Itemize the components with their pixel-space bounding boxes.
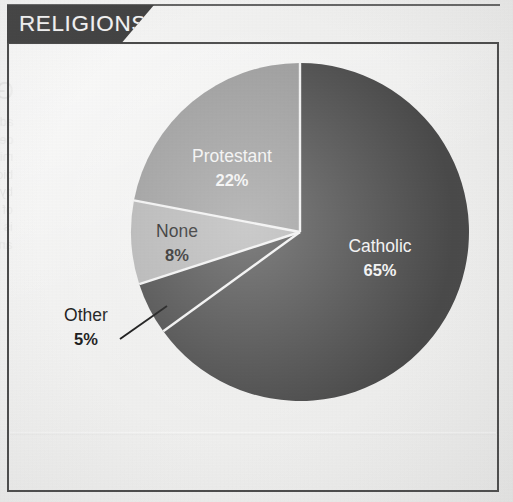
religions-pie-chart: Catholic65%Other5%None8%Protestant22% (0, 0, 513, 502)
slice-label-name-catholic: Catholic (348, 236, 411, 256)
slice-label-name-protestant: Protestant (192, 146, 272, 166)
slice-label-pct-other: 5% (74, 330, 98, 348)
slice-label-pct-catholic: 65% (363, 261, 396, 279)
slice-label-pct-none: 8% (165, 246, 189, 264)
slice-label-name-other: Other (64, 305, 108, 325)
slice-label-name-none: None (156, 221, 198, 241)
slice-label-pct-protestant: 22% (215, 171, 248, 189)
